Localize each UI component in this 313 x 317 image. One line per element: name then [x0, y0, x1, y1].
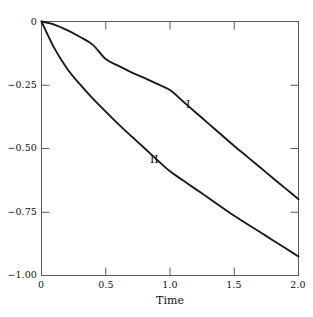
y-axis-ticks [42, 85, 50, 212]
x-axis-ticks [106, 268, 235, 276]
ytick-label-1: −0.25 [0, 79, 37, 90]
curve-label-ii: II [150, 153, 159, 166]
chart-figure: 0 −0.25 −0.50 −0.75 −1.00 0 0.5 1.0 1.5 … [0, 0, 313, 317]
ytick-label-2: −0.50 [0, 142, 37, 153]
xtick-label-3: 1.5 [220, 279, 248, 290]
ytick-label-3: −0.75 [0, 206, 37, 217]
xtick-label-0: 0 [27, 279, 55, 290]
x-axis-title: Time [120, 294, 220, 307]
plot-frame [42, 22, 299, 276]
ytick-label-0: 0 [0, 16, 37, 27]
data-curve-i [42, 22, 299, 200]
xtick-label-1: 0.5 [92, 279, 120, 290]
xtick-label-2: 1.0 [156, 279, 184, 290]
xtick-label-4: 2.0 [284, 279, 312, 290]
data-curve-ii [42, 22, 299, 257]
x-axis-ticks-top [106, 22, 235, 30]
curve-label-i: I [186, 98, 190, 111]
